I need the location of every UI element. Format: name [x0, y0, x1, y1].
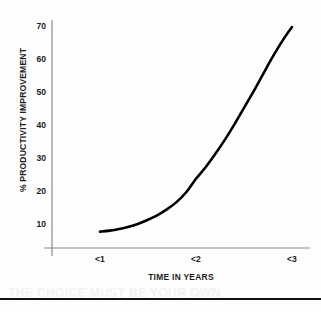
figure: % PRODUCTIVITY IMPROVEMENT 70 60 50 40 3…	[0, 0, 321, 312]
plot-area	[0, 0, 321, 312]
data-series-line	[100, 27, 292, 232]
bottom-rule	[0, 298, 321, 300]
